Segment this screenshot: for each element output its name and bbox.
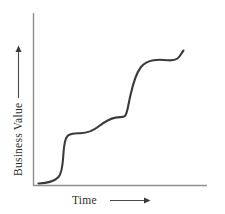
- business-value-chart: Time Business Value: [0, 0, 225, 214]
- y-axis-label: Business Value: [12, 103, 24, 176]
- x-axis-label: Time: [72, 194, 97, 206]
- chart-canvas: Time Business Value: [0, 0, 225, 214]
